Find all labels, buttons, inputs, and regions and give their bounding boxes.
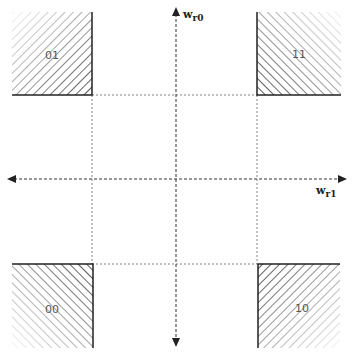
region-label-10: 10	[295, 302, 309, 315]
arrow-left-icon	[7, 175, 16, 183]
arrow-right-icon	[338, 175, 347, 183]
axis-label-wr1: wr1	[315, 184, 337, 199]
arrow-up-icon	[172, 7, 180, 16]
region-label-11: 11	[292, 48, 306, 61]
region-10: 10	[258, 264, 340, 348]
arrow-down-icon	[172, 338, 180, 347]
region-label-00: 00	[45, 303, 59, 316]
axis-vertical: wr0	[172, 7, 204, 347]
region-11: 11	[257, 12, 341, 95]
region-01: 01	[12, 12, 92, 95]
axis-horizontal: wr1	[7, 175, 347, 199]
axis-label-wr0: wr0	[182, 8, 204, 23]
decision-region-diagram: 01 11 00 10 wr0 wr1	[0, 0, 353, 356]
region-label-01: 01	[45, 49, 59, 62]
region-00: 00	[12, 264, 93, 348]
